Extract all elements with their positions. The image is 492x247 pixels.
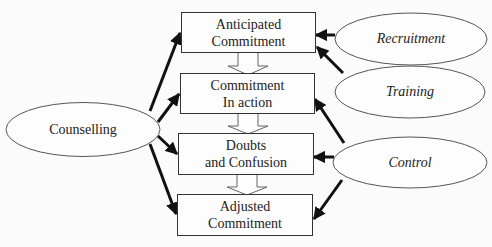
stage-label-line2: and Confusion — [205, 154, 287, 171]
stage-label-line2: Commitment — [208, 215, 282, 232]
stage-label-line1: Commitment — [211, 77, 285, 94]
stage-box-commitment-in-action: Commitment In action — [180, 73, 315, 114]
stage-box-doubts-and-confusion: Doubts and Confusion — [178, 133, 314, 175]
stage-box-adjusted-commitment: Adjusted Commitment — [177, 194, 313, 236]
arrow-counselling-to-inaction — [158, 94, 179, 122]
stage-label-line2: Commitment — [212, 33, 286, 50]
hollow-arrow-3-to-4 — [227, 175, 267, 195]
training-label: Training — [335, 66, 485, 118]
stage-label-line1: Doubts — [226, 137, 266, 154]
recruitment-label: Recruitment — [335, 13, 487, 65]
control-label: Control — [333, 137, 487, 188]
hollow-arrow-2-to-3 — [228, 114, 268, 134]
counselling-label: Counselling — [6, 103, 160, 156]
stage-label-line1: Anticipated — [216, 16, 281, 33]
hollow-arrow-1-to-2 — [228, 53, 268, 75]
stage-label-line2: In action — [223, 94, 272, 111]
stage-box-anticipated-commitment: Anticipated Commitment — [181, 12, 316, 53]
stage-label-line1: Adjusted — [220, 198, 271, 215]
arrow-counselling-to-doubts — [158, 136, 177, 154]
